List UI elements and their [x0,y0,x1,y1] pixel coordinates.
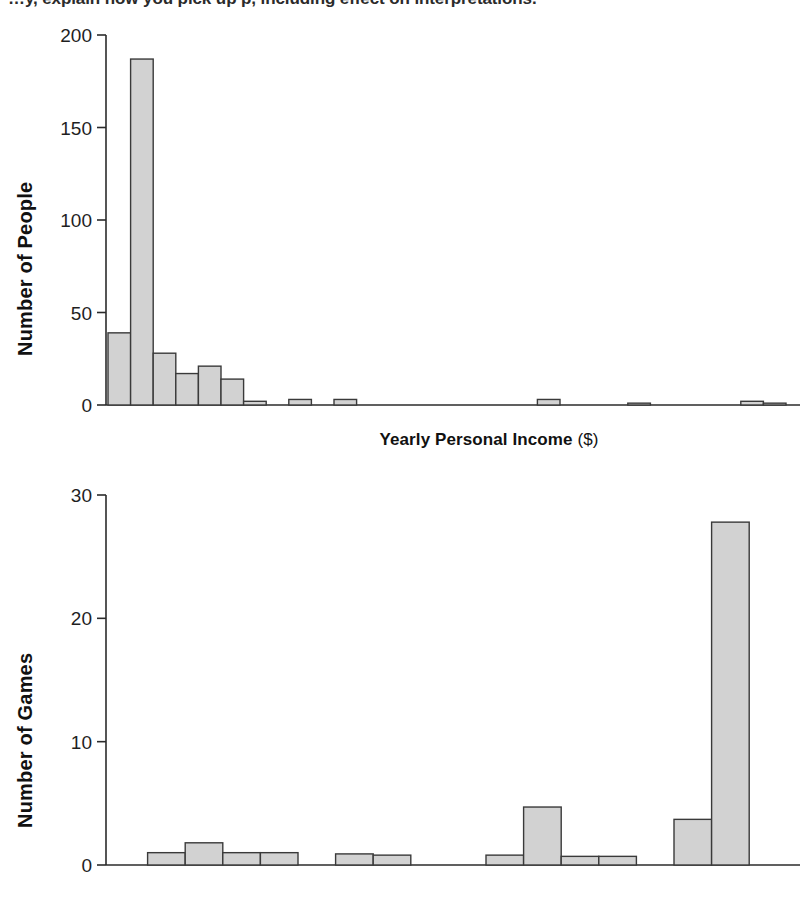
attendance-bar [223,853,261,865]
attendance-bar [185,843,223,865]
income-histogram-plot: 050100150200 [0,14,806,414]
income-y-axis-title: Number of People [14,182,37,356]
page-caption: …y, explain how you pick up p, including… [0,0,806,13]
income-y-tick-label: 50 [71,303,92,324]
attendance-bar [336,854,374,865]
income-bar [244,401,267,405]
income-bar [628,403,651,405]
attendance-histogram-plot: 0102030 [0,450,806,880]
attendance-histogram-figure: 0102030 Number of Games Attendance at Ho… [0,450,806,919]
attendance-bar [373,855,411,865]
attendance-bar [674,819,712,865]
attendance-bar [148,853,186,865]
attendance-bar [486,855,524,865]
income-bar [221,379,244,405]
income-bars [108,59,786,405]
income-bar [198,366,221,405]
income-bar [176,374,199,405]
attendance-y-tick-label: 20 [71,608,92,629]
income-bar [537,399,560,405]
attendance-y-tick-label: 30 [71,485,92,506]
income-y-tick-label: 150 [60,118,92,139]
income-x-axis-title: Yearly Personal Income ($) [0,430,806,450]
attendance-bar [712,522,750,865]
income-x-axis-unit: ($) [573,430,599,449]
income-bar [741,401,764,405]
attendance-y-tick-label: 0 [81,855,92,876]
income-bar [334,399,357,405]
attendance-bar [524,807,562,865]
income-y-tick-label: 200 [60,25,92,46]
income-bar [108,333,131,405]
attendance-bar [599,856,637,865]
income-histogram-figure: 050100150200 Number of People Yearly Per… [0,14,806,450]
caption-text: …y, explain how you pick up p, including… [8,0,537,9]
attendance-bar [561,856,599,865]
income-y-tick-label: 100 [60,210,92,231]
attendance-y-tick-label: 10 [71,732,92,753]
income-x-axis-title-main: Yearly Personal Income [380,430,573,449]
income-bar [131,59,154,405]
income-bar [763,403,786,405]
income-bar [289,399,312,405]
income-y-tick-label: 0 [81,395,92,414]
attendance-bar [260,853,298,865]
income-bar [153,353,176,405]
attendance-bars [148,522,750,865]
attendance-y-axis-title: Number of Games [14,653,37,828]
